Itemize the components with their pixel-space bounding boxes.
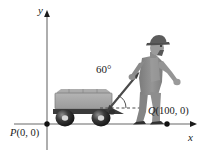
person-pulling-hand bbox=[129, 74, 136, 80]
wagon-body bbox=[55, 93, 112, 109]
person-eye bbox=[160, 45, 162, 47]
point-marker-p bbox=[44, 121, 49, 126]
person-rear-leg bbox=[136, 92, 148, 122]
point-marker-q bbox=[164, 121, 169, 126]
person-trailing-hand bbox=[173, 79, 180, 85]
person-hat-crown bbox=[150, 35, 167, 43]
x-axis-arrowhead bbox=[190, 121, 197, 127]
wagon-wheel-rear bbox=[56, 110, 75, 127]
x-axis-label: x bbox=[188, 132, 193, 143]
point-label-q-coords: (100, 0) bbox=[156, 105, 189, 116]
point-label-p-coords: (0, 0) bbox=[16, 127, 39, 138]
point-label-p: P(0, 0) bbox=[10, 128, 39, 139]
figure-canvas: y x P(0, 0) Q(100, 0) 60° bbox=[0, 0, 207, 156]
y-axis-arrowhead bbox=[44, 10, 50, 17]
coordinate-axes bbox=[14, 10, 197, 150]
wagon-wheel-front bbox=[92, 110, 111, 127]
hitch-pivot bbox=[109, 109, 115, 114]
angle-label: 60° bbox=[96, 64, 111, 75]
point-label-q-var: Q bbox=[148, 105, 156, 116]
wagon-handle-rod bbox=[109, 75, 138, 110]
y-axis-label: y bbox=[38, 5, 43, 16]
point-label-q: Q(100, 0) bbox=[148, 106, 189, 117]
